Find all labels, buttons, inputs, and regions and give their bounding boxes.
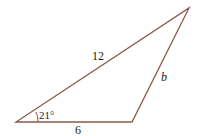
side-label-b: b [161,70,167,84]
angle-arc [36,112,38,122]
triangle [16,8,189,122]
triangle-diagram: 12 6 b 21° [0,0,199,136]
angle-label: 21° [39,109,54,121]
side-label-6: 6 [75,123,81,136]
side-label-12: 12 [92,49,104,63]
